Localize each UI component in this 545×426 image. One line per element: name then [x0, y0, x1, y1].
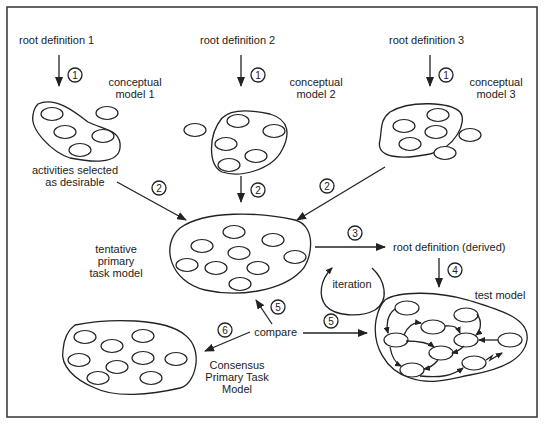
consensus-model-line1: Consensus	[209, 359, 265, 371]
svg-text:2: 2	[255, 185, 261, 196]
step-badge-1a: 1	[68, 68, 82, 82]
step-badge-5a: 5	[271, 300, 285, 314]
consensus-model-line2: Primary Task	[205, 371, 269, 383]
conceptual-model-2-line2: model 2	[296, 88, 335, 100]
conceptual-model-3-line1: conceptual	[469, 76, 522, 88]
svg-text:2: 2	[156, 183, 162, 194]
arrow-step2-from-model3	[297, 167, 385, 220]
activities-label-line2: as desirable	[45, 176, 104, 188]
svg-text:3: 3	[352, 228, 358, 239]
svg-text:1: 1	[443, 70, 449, 81]
consensus-model-line3: Model	[222, 383, 252, 395]
conceptual-model-3	[379, 104, 481, 160]
step-badge-2c: 2	[320, 179, 334, 193]
root-definition-derived-label: root definition (derived)	[393, 241, 506, 253]
svg-text:5: 5	[328, 316, 334, 327]
activities-label-line1: activities selected	[32, 164, 118, 176]
conceptual-model-2	[184, 111, 287, 174]
step-badge-1b: 1	[251, 68, 265, 82]
step-badge-1c: 1	[439, 68, 453, 82]
tentative-model-line1: tentative	[95, 243, 137, 255]
conceptual-model-1	[33, 102, 120, 161]
root-definition-2-label: root definition 2	[200, 34, 275, 46]
step-badge-5b: 5	[324, 314, 338, 328]
svg-text:2: 2	[324, 181, 330, 192]
step-badge-4: 4	[448, 263, 462, 277]
root-definition-3-label: root definition 3	[389, 34, 464, 46]
svg-text:4: 4	[452, 265, 458, 276]
step-badge-2b: 2	[251, 183, 265, 197]
tentative-model-line3: task model	[89, 267, 142, 279]
tentative-primary-task-model	[170, 214, 311, 293]
conceptual-model-3-line2: model 3	[476, 88, 515, 100]
svg-text:1: 1	[72, 70, 78, 81]
root-definition-1-label: root definition 1	[19, 34, 94, 46]
step-badge-2a: 2	[152, 181, 166, 195]
consensus-primary-task-model	[63, 321, 197, 395]
step-badge-3: 3	[348, 226, 362, 240]
test-model-label: test model	[475, 289, 526, 301]
step-badge-6: 6	[218, 323, 232, 337]
tentative-model-line2: primary	[98, 255, 135, 267]
conceptual-model-2-line1: conceptual	[289, 76, 342, 88]
iteration-label: iteration	[332, 278, 371, 290]
svg-text:5: 5	[275, 302, 281, 313]
iteration-loop	[321, 268, 384, 315]
conceptual-model-1-line1: conceptual	[108, 76, 161, 88]
arrow-step5-to-tentative	[256, 300, 272, 324]
svg-text:6: 6	[222, 325, 228, 336]
conceptual-model-1-line2: model 1	[115, 88, 154, 100]
diagram-canvas: root definition 1 root definition 2 root…	[0, 0, 545, 426]
svg-text:1: 1	[255, 70, 261, 81]
test-model	[375, 293, 527, 381]
compare-label: compare	[254, 326, 297, 338]
